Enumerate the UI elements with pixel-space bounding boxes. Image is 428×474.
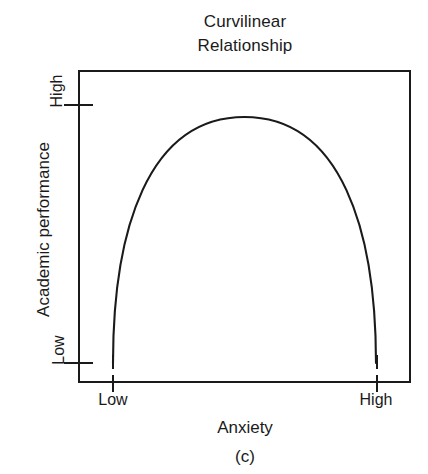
x-tick-low-inner-mark [112, 355, 114, 369]
chart-title: Curvilinear Relationship [0, 10, 428, 58]
y-tick-low-inner-mark [79, 362, 93, 364]
x-tick-low-mark [112, 375, 114, 392]
x-tick-label-low: Low [82, 391, 144, 409]
x-tick-high-mark [376, 375, 378, 392]
y-tick-label-low: Low [51, 327, 67, 373]
curve-path [113, 117, 376, 363]
y-tick-high-mark [64, 104, 80, 106]
curvilinear-curve [78, 70, 411, 383]
figure-panel: Curvilinear Relationship High Low Low Hi… [0, 0, 428, 474]
chart-title-line-2: Relationship [62, 34, 428, 58]
chart-title-line-1: Curvilinear [62, 10, 428, 34]
x-axis-title: Anxiety [0, 418, 428, 438]
y-axis-title: Academic performance [35, 120, 52, 340]
x-tick-high-inner-mark [376, 355, 378, 369]
x-tick-label-high: High [345, 391, 407, 409]
panel-caption: (c) [0, 447, 428, 467]
y-tick-label-high: High [49, 68, 65, 114]
y-tick-high-inner-mark [79, 104, 93, 106]
